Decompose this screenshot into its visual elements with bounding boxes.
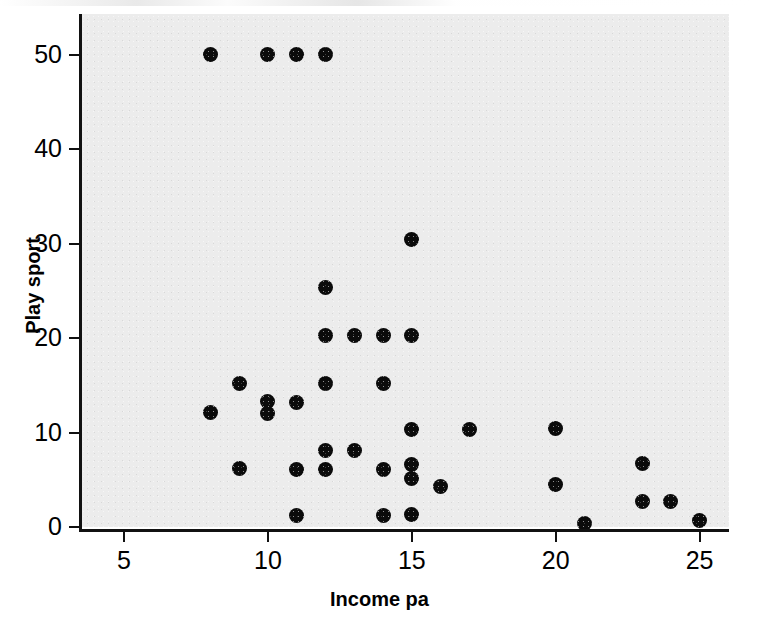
plot-area bbox=[81, 14, 729, 527]
x-tick bbox=[267, 531, 269, 542]
y-tick-label: 40 bbox=[34, 136, 62, 161]
data-point bbox=[635, 456, 650, 471]
data-point bbox=[289, 508, 304, 523]
x-tick-label: 15 bbox=[398, 548, 426, 573]
data-point bbox=[635, 494, 650, 509]
x-tick-label: 5 bbox=[117, 548, 131, 573]
y-axis-line bbox=[79, 14, 82, 531]
x-tick bbox=[555, 531, 557, 542]
scan-artifact bbox=[0, 0, 759, 6]
data-point bbox=[692, 513, 707, 528]
x-tick-label: 25 bbox=[686, 548, 714, 573]
x-tick-label: 20 bbox=[542, 548, 570, 573]
y-axis-title: Play sport bbox=[22, 206, 45, 366]
data-point bbox=[433, 479, 448, 494]
data-point bbox=[376, 376, 391, 391]
data-point bbox=[462, 422, 477, 437]
data-point bbox=[260, 406, 275, 421]
data-point bbox=[347, 443, 362, 458]
y-tick bbox=[69, 337, 80, 339]
data-point bbox=[404, 422, 419, 437]
data-point bbox=[548, 421, 563, 436]
data-point bbox=[548, 477, 563, 492]
y-tick bbox=[69, 526, 80, 528]
data-point bbox=[663, 494, 678, 509]
scatter-plot-figure: 01020304050 510152025 Play sport Income … bbox=[0, 0, 759, 633]
x-tick bbox=[699, 531, 701, 542]
data-point bbox=[404, 507, 419, 522]
data-point bbox=[318, 47, 333, 62]
x-tick-label: 10 bbox=[254, 548, 282, 573]
data-point bbox=[203, 405, 218, 420]
data-point bbox=[289, 462, 304, 477]
data-point bbox=[318, 462, 333, 477]
x-axis-title: Income pa bbox=[0, 588, 759, 611]
data-point bbox=[289, 47, 304, 62]
x-tick bbox=[411, 531, 413, 542]
data-point bbox=[318, 376, 333, 391]
data-point bbox=[232, 461, 247, 476]
data-point bbox=[347, 328, 362, 343]
data-point bbox=[404, 471, 419, 486]
data-point bbox=[318, 443, 333, 458]
y-tick bbox=[69, 243, 80, 245]
y-tick bbox=[69, 148, 80, 150]
data-point bbox=[318, 280, 333, 295]
data-point bbox=[260, 47, 275, 62]
data-point bbox=[404, 457, 419, 472]
data-point bbox=[404, 328, 419, 343]
data-point bbox=[404, 232, 419, 247]
data-point bbox=[318, 328, 333, 343]
data-point bbox=[203, 47, 218, 62]
y-tick-label: 50 bbox=[34, 42, 62, 67]
data-point bbox=[232, 376, 247, 391]
y-tick-label: 10 bbox=[34, 420, 62, 445]
data-point bbox=[376, 462, 391, 477]
y-tick bbox=[69, 54, 80, 56]
data-point bbox=[289, 395, 304, 410]
y-tick-label: 0 bbox=[48, 514, 62, 539]
y-tick bbox=[69, 432, 80, 434]
x-tick bbox=[123, 531, 125, 542]
data-point bbox=[376, 508, 391, 523]
x-axis-line bbox=[79, 529, 729, 532]
data-point bbox=[376, 328, 391, 343]
